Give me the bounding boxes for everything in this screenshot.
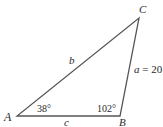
angle-label-a: 38° [37, 103, 51, 114]
angle-label-b: 102° [97, 103, 116, 114]
side-label-b: b [69, 54, 75, 66]
side-label-a: a = 20 [134, 63, 163, 75]
triangle-diagram: A B C b a = 20 c 38° 102° [0, 0, 163, 127]
vertex-label-c: C [139, 3, 147, 15]
vertex-label-a: A [3, 110, 12, 124]
triangle-abc [17, 18, 139, 116]
side-label-c: c [64, 116, 69, 127]
vertex-label-b: B [119, 116, 126, 127]
